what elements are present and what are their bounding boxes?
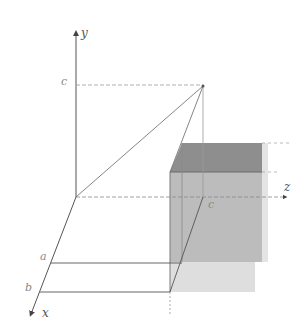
z-axis-label: z: [284, 181, 290, 193]
diagram-svg: [0, 0, 306, 334]
x-axis-label: x: [42, 307, 49, 319]
box-front-face: [170, 172, 262, 262]
shaded-box: [170, 143, 290, 292]
box-lower-band: [170, 262, 255, 292]
box-side-face: [262, 143, 268, 262]
diagram-canvas: y x z c c a b: [0, 0, 306, 334]
x-axis: [31, 197, 76, 314]
y-axis-label: y: [81, 27, 88, 39]
c-label-y: c: [61, 76, 67, 88]
apex-point: [202, 85, 205, 88]
b-label: b: [25, 282, 32, 294]
box-top-face: [170, 143, 262, 172]
a-label: a: [40, 251, 47, 263]
c-label-z: c: [208, 199, 214, 211]
